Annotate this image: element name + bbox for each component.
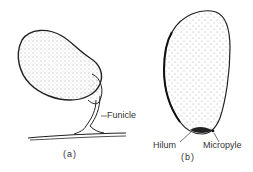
panel-b-caption: (b) [181,153,195,162]
ovule-drawing [18,30,126,140]
hilum-label: Hilum [153,141,176,150]
panel-a-caption: (a) [63,150,77,159]
funicle-label: Funicle [107,111,136,120]
micropyle-label: Micropyle [203,141,242,150]
seed-drawing [164,11,230,142]
